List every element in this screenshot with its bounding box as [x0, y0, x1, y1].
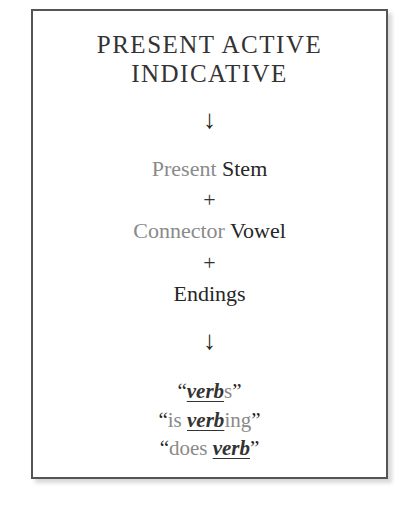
- title-line-2: INDICATIVE: [33, 60, 386, 88]
- translation-does-verb: “does verb”: [33, 436, 386, 461]
- title-line-1: PRESENT ACTIVE: [33, 31, 386, 59]
- plus-sign-2: +: [33, 250, 386, 276]
- open-quote: “: [177, 379, 186, 403]
- connector-vowel-label: Connector Vowel: [33, 218, 386, 244]
- verb-stem: verb: [187, 379, 224, 403]
- translation-is-verbing: “is verbing”: [33, 408, 386, 433]
- close-quote: ”: [232, 379, 241, 403]
- present-word: Present: [152, 156, 217, 181]
- prefix: is: [168, 408, 187, 432]
- down-arrow-icon-2: ↓: [33, 326, 386, 356]
- present-stem-label: Present Stem: [33, 156, 386, 182]
- prefix: does: [169, 436, 213, 460]
- close-quote: ”: [251, 408, 260, 432]
- endings-label: Endings: [33, 281, 386, 307]
- suffix: ing: [224, 408, 251, 432]
- verb-stem: verb: [213, 436, 250, 460]
- present-active-indicative-box: PRESENT ACTIVE INDICATIVE ↓ Present Stem…: [31, 9, 388, 479]
- open-quote: “: [158, 408, 167, 432]
- plus-sign-1: +: [33, 187, 386, 213]
- open-quote: “: [160, 436, 169, 460]
- down-arrow-icon: ↓: [33, 105, 386, 135]
- endings-word: Endings: [173, 281, 245, 306]
- vowel-word: Vowel: [230, 218, 286, 243]
- stem-word: Stem: [222, 156, 267, 181]
- verb-stem: verb: [187, 408, 224, 432]
- connector-word: Connector: [133, 218, 225, 243]
- translation-verbs: “verbs”: [33, 379, 386, 404]
- close-quote: ”: [250, 436, 259, 460]
